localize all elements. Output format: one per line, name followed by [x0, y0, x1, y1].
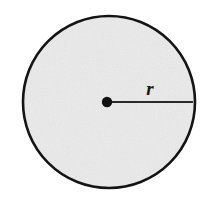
- radius-label: r: [146, 78, 154, 99]
- circle-radius-figure: r: [0, 0, 210, 203]
- diagram-canvas: r: [0, 0, 210, 203]
- center-point: [102, 97, 112, 107]
